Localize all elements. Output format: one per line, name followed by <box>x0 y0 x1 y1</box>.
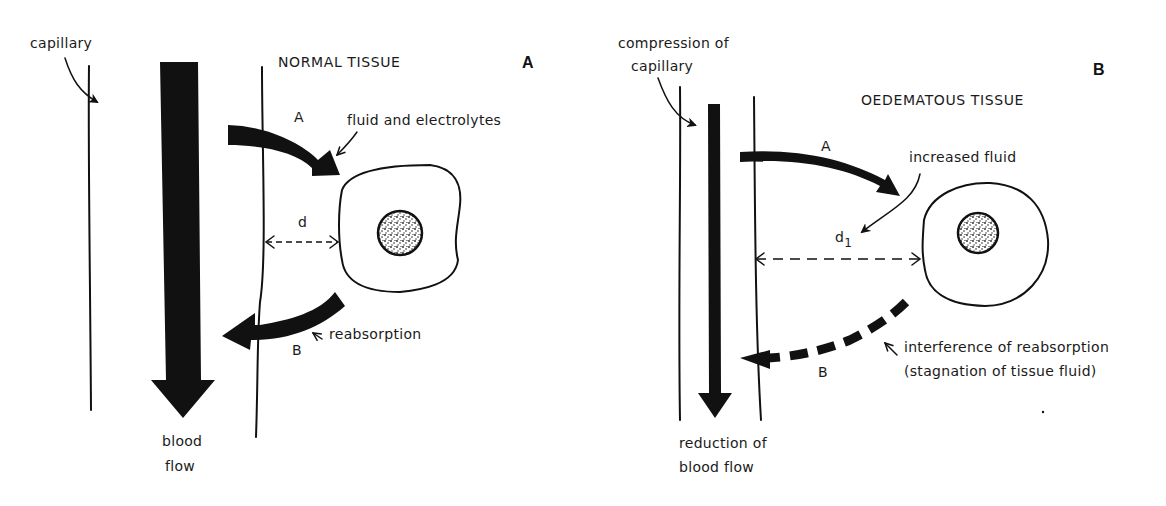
fluid-pointer-arrow <box>337 132 357 155</box>
cell-nucleus <box>958 213 998 253</box>
label-compression-of: compression of <box>618 35 730 51</box>
capillary-pointer-arrow <box>65 58 97 102</box>
panel-b-letter: B <box>1093 61 1105 78</box>
interference-arrow-b <box>740 302 906 369</box>
label-capillary: capillary <box>30 35 92 51</box>
scan-artifact-dot <box>1042 411 1044 413</box>
oedema-diagram: capillary NORMAL TISSUE A A fluid and el… <box>0 0 1166 506</box>
panel-a-letter: A <box>522 54 534 71</box>
label-fluid-electrolytes: fluid and electrolytes <box>347 112 501 128</box>
blood-flow-arrow <box>151 62 215 418</box>
panel-b-title: OEDEMATOUS TISSUE <box>861 92 1024 108</box>
label-capillary: capillary <box>631 58 693 74</box>
label-arrow-b: B <box>818 364 828 380</box>
label-distance-d: d <box>298 214 307 230</box>
label-arrow-a: A <box>294 109 304 125</box>
panel-a-normal-tissue: capillary NORMAL TISSUE A A fluid and el… <box>30 35 534 474</box>
label-distance-d1: d1 <box>835 229 852 250</box>
reduced-blood-flow-arrow <box>698 104 732 418</box>
compressed-capillary-left-wall <box>679 87 680 420</box>
cell-nucleus <box>378 211 422 255</box>
label-arrow-a: A <box>821 138 831 154</box>
label-reabsorption: reabsorption <box>329 326 421 342</box>
label-stagnation: (stagnation of tissue fluid) <box>904 363 1097 379</box>
compression-pointer-arrow <box>658 78 695 125</box>
reabsorption-arrow-b <box>222 292 345 350</box>
label-interference: interference of reabsorption <box>904 339 1109 355</box>
panel-b-oedematous-tissue: compression of capillary B OEDEMATOUS TI… <box>618 35 1109 475</box>
capillary-left-wall <box>89 66 91 410</box>
capillary-right-wall <box>256 67 264 437</box>
label-increased-fluid: increased fluid <box>909 149 1016 165</box>
filtration-arrow-a <box>228 125 340 176</box>
label-reduction-of: reduction of <box>679 435 768 451</box>
panel-a-title: NORMAL TISSUE <box>278 54 400 70</box>
interference-pointer-arrow <box>885 343 897 355</box>
filtration-arrow-a <box>740 151 900 196</box>
label-blood-flow: blood flow <box>679 459 754 475</box>
reabsorption-pointer-arrow <box>313 333 322 339</box>
label-flow: flow <box>165 458 195 474</box>
label-arrow-b: B <box>292 342 302 358</box>
label-blood: blood <box>162 433 202 449</box>
